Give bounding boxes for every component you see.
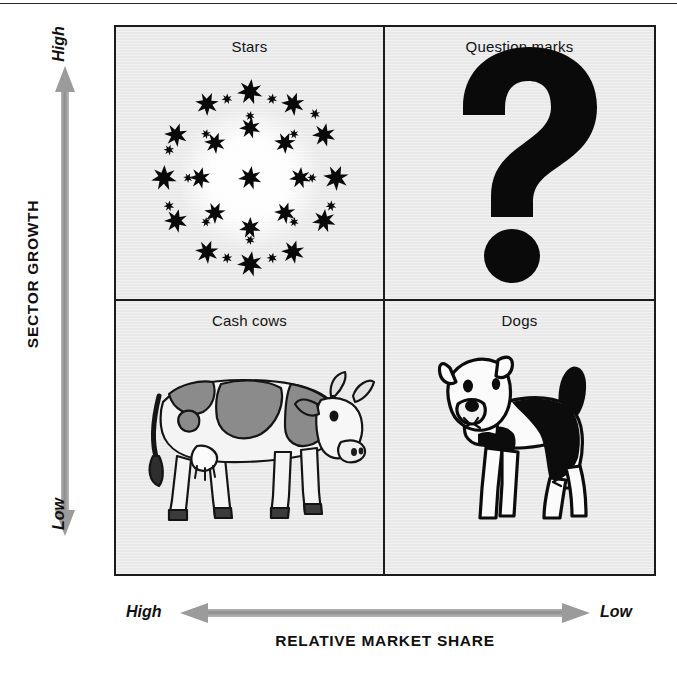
dog-icon: [385, 341, 654, 541]
y-axis-title: SECTOR GROWTH: [24, 164, 42, 384]
horizontal-double-arrow-icon: [180, 602, 590, 624]
bcg-matrix: Stars: [114, 25, 656, 576]
y-axis-high-label: High: [50, 7, 68, 81]
quadrant-label-cash-cows: Cash cows: [116, 312, 383, 329]
x-axis-title: RELATIVE MARKET SHARE: [180, 632, 590, 650]
question-mark-icon: [385, 45, 654, 295]
cow-icon: [116, 353, 383, 543]
star-cluster-icon: [116, 63, 383, 293]
quadrant-stars[interactable]: Stars: [116, 27, 385, 301]
quadrant-label-stars: Stars: [116, 38, 383, 55]
quadrant-cash-cows[interactable]: Cash cows: [116, 301, 385, 575]
vertical-double-arrow-icon: [54, 66, 76, 536]
y-axis-low-label: Low: [50, 479, 68, 549]
quadrant-dogs[interactable]: Dogs: [385, 301, 654, 575]
quadrant-question-marks[interactable]: Question marks: [385, 27, 654, 301]
x-axis-high-label: High: [126, 603, 162, 621]
x-axis-low-label: Low: [600, 603, 632, 621]
page-top-rule: [0, 3, 677, 4]
quadrant-label-dogs: Dogs: [385, 312, 654, 329]
